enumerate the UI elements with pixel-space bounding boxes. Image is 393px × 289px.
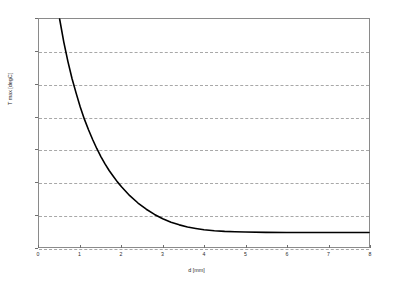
x-tick-label: 1 — [70, 252, 90, 257]
x-tick-label: 2 — [111, 252, 131, 257]
chart-figure: 122124126128130132134136012345678 T max … — [0, 0, 393, 289]
x-tick-label: 3 — [153, 252, 173, 257]
x-tick-label: 6 — [277, 252, 297, 257]
x-tick-label: 5 — [236, 252, 256, 257]
x-tick-label: 7 — [319, 252, 339, 257]
x-tick-label: 0 — [28, 252, 48, 257]
tick-labels-layer: 122124126128130132134136012345678 — [0, 0, 393, 289]
x-axis-title: d [mm] — [0, 268, 393, 273]
y-axis-title: T max [degC] — [8, 73, 13, 105]
x-tick-label: 4 — [194, 252, 214, 257]
x-tick-label: 8 — [360, 252, 380, 257]
